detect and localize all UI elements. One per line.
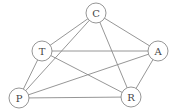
node-C: C [86,3,106,23]
edge-C-R [96,13,131,97]
node-R: R [121,87,141,107]
node-label: P [16,93,23,104]
node-label: R [127,92,135,103]
node-A: A [148,41,168,61]
node-label: T [39,46,46,57]
edge-P-R [19,97,131,98]
edge-C-A [96,13,158,51]
edge-T-R [42,51,131,97]
node-label: A [153,46,162,57]
node-P: P [9,88,29,108]
node-label: C [92,8,100,19]
complete-graph-diagram: CTAPR [0,0,184,112]
node-T: T [32,41,52,61]
